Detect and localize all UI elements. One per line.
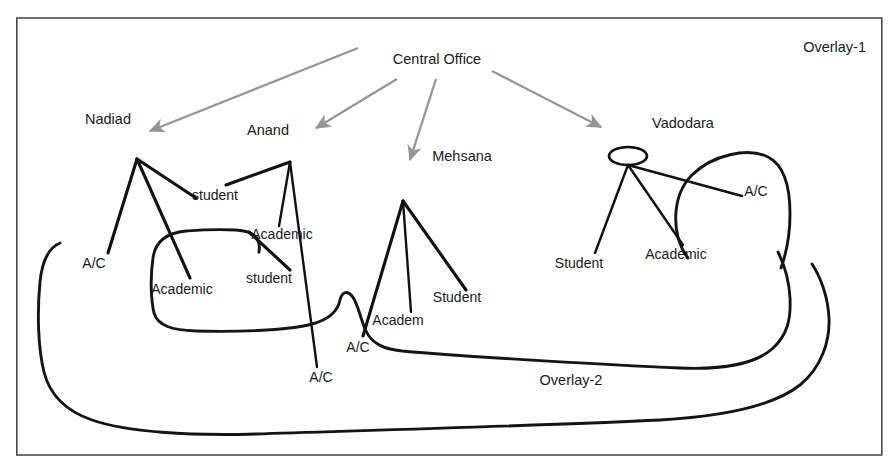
overlay-2-curve-lower [38, 243, 829, 434]
mehsana-edge-student [403, 201, 466, 290]
mehsana-child-academ: Academ [372, 312, 423, 328]
central-office-arrows [150, 48, 601, 160]
anand-child-academic: Academic [251, 226, 312, 242]
nadiad-child-academic: Academic [151, 281, 212, 297]
network-overlay-diagram: Central Office Overlay-1 Overlay-2 Nadia… [0, 0, 895, 466]
anand-child-student: student [246, 270, 292, 286]
root-label: Central Office [393, 51, 481, 67]
arrow-to-vadodara [492, 71, 601, 127]
anand-edge-student [226, 162, 290, 185]
arrow-to-anand [316, 79, 397, 128]
site-tree-anand [226, 162, 317, 367]
vadodara-child-student: Student [555, 255, 603, 271]
anand-child-ac: A/C [309, 369, 332, 385]
anand-edge-academic [279, 162, 290, 226]
overlay-2-label: Overlay-2 [540, 372, 603, 388]
anand-edge-ac [290, 162, 317, 367]
diagram-canvas: Central Office Overlay-1 Overlay-2 Nadia… [0, 0, 895, 466]
site-label-anand: Anand [247, 122, 289, 138]
arrow-to-nadiad [150, 48, 358, 131]
site-label-mehsana: Mehsana [432, 148, 493, 164]
mehsana-edge-academ [403, 201, 411, 312]
vadodara-child-academic: Academic [645, 246, 706, 262]
site-tree-vadodara [595, 147, 742, 253]
nadiad-child-ac: A/C [82, 255, 105, 271]
nadiad-edge-ac [108, 159, 137, 253]
site-label-nadiad: Nadiad [85, 111, 131, 127]
mehsana-child-ac: A/C [346, 339, 369, 355]
diagram-frame [17, 18, 882, 455]
vadodara-child-ac: A/C [744, 183, 767, 199]
vadodara-edge-student [595, 165, 628, 253]
overlay-1-label: Overlay-1 [803, 39, 866, 55]
mehsana-child-student: Student [433, 289, 481, 305]
vadodara-node-ellipse-icon [609, 147, 647, 165]
nadiad-child-student: student [192, 187, 238, 203]
site-label-vadodara: Vadodara [652, 115, 715, 131]
